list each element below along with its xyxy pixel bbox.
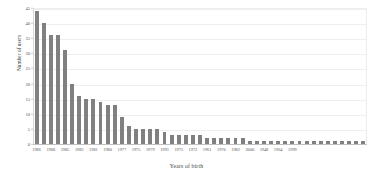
bar xyxy=(340,141,344,144)
x-tick-label: 1977 xyxy=(118,147,127,152)
bar xyxy=(326,141,330,144)
x-tick-label: 2000 xyxy=(245,147,254,152)
bar xyxy=(354,141,358,144)
x-tick-label: 1973 xyxy=(174,147,183,152)
bar xyxy=(219,138,223,144)
bar xyxy=(312,141,316,144)
y-tick-label: 35 xyxy=(25,36,30,41)
bar xyxy=(141,129,145,144)
x-axis-ticks: 1986198819851983198119801977197519791993… xyxy=(33,145,367,157)
y-tick-label: 40 xyxy=(25,21,30,26)
bar xyxy=(283,141,287,144)
bar xyxy=(42,23,46,144)
bar-chart: Number of users 051015202530354045 19861… xyxy=(0,0,373,178)
bar xyxy=(333,141,337,144)
y-tick-label: 30 xyxy=(25,51,30,56)
bar xyxy=(226,138,230,144)
x-tick-label: 1975 xyxy=(132,147,141,152)
bar xyxy=(255,141,259,144)
x-tick-label: 1972 xyxy=(189,147,198,152)
x-tick-label: 1979 xyxy=(146,147,155,152)
bar xyxy=(127,126,131,144)
x-tick-label: 1988 xyxy=(46,147,55,152)
bar xyxy=(205,138,209,144)
x-tick-label: 1970 xyxy=(217,147,226,152)
y-tick-label: 15 xyxy=(25,96,30,101)
bar xyxy=(35,11,39,144)
bar xyxy=(177,135,181,144)
x-tick-label: 1948 xyxy=(260,147,269,152)
y-tick-label: 25 xyxy=(25,66,30,71)
bar xyxy=(269,141,273,144)
bar xyxy=(163,132,167,144)
x-tick-label: 1999 xyxy=(288,147,297,152)
x-tick-label: 1983 xyxy=(75,147,84,152)
x-tick-label: 1985 xyxy=(61,147,70,152)
bar xyxy=(155,129,159,144)
bar xyxy=(63,50,67,144)
x-tick-label: 1964 xyxy=(274,147,283,152)
bar-series xyxy=(33,8,367,144)
bar xyxy=(298,141,302,144)
bar xyxy=(361,141,365,144)
y-axis-ticks: 051015202530354045 xyxy=(0,0,33,144)
bar xyxy=(106,105,110,144)
y-tick-label: 5 xyxy=(28,126,30,131)
x-tick-label: 1961 xyxy=(203,147,212,152)
x-tick-label: 1982 xyxy=(231,147,240,152)
bar xyxy=(276,141,280,144)
bar xyxy=(84,99,88,144)
x-tick-label: 1980 xyxy=(103,147,112,152)
bar xyxy=(70,84,74,144)
bar xyxy=(262,141,266,144)
bar xyxy=(347,141,351,144)
y-tick-label: 0 xyxy=(28,142,30,147)
bar xyxy=(56,35,60,144)
bar xyxy=(241,138,245,144)
x-tick-label: 1986 xyxy=(32,147,41,152)
bar xyxy=(305,141,309,144)
bar xyxy=(120,117,124,144)
bar xyxy=(91,99,95,144)
x-axis-title: Years of birth xyxy=(0,163,373,169)
x-tick-label: 1981 xyxy=(89,147,98,152)
bar xyxy=(290,141,294,144)
bar xyxy=(234,138,238,144)
y-tick-label: 20 xyxy=(25,81,30,86)
bar xyxy=(49,35,53,144)
bar xyxy=(212,138,216,144)
bar xyxy=(77,96,81,144)
x-tick-label: 1993 xyxy=(160,147,169,152)
y-tick-label: 45 xyxy=(25,6,30,11)
bar xyxy=(99,102,103,144)
bar xyxy=(170,135,174,144)
bar xyxy=(134,129,138,144)
bar xyxy=(191,135,195,144)
bar xyxy=(198,135,202,144)
bar xyxy=(148,129,152,144)
bar xyxy=(319,141,323,144)
bar xyxy=(184,135,188,144)
bar xyxy=(113,105,117,144)
bar xyxy=(248,141,252,144)
y-tick-label: 10 xyxy=(25,111,30,116)
